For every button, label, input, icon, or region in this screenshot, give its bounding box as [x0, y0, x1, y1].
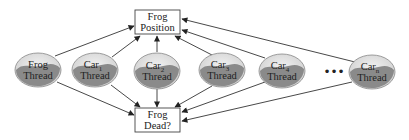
- thread-car4-name: Car: [271, 60, 287, 71]
- frog-threads-diagram: Frog Position Frog Dead? Frog Thread Car…: [0, 0, 409, 140]
- thread-car3-label: Thread: [207, 70, 237, 81]
- frog-position-line2: Position: [140, 22, 175, 33]
- thread-carn: Carn Thread: [349, 55, 395, 89]
- frog-dead-box: Frog Dead?: [135, 108, 180, 132]
- thread-car2-name: Car: [146, 60, 162, 71]
- frog-position-box: Frog Position: [135, 10, 180, 34]
- thread-carn-label: Thread: [357, 72, 387, 83]
- thread-car3-name: Car: [211, 59, 227, 70]
- frog-position-line1: Frog: [148, 11, 169, 22]
- thread-frog: Frog Thread: [15, 53, 61, 87]
- frog-dead-line1: Frog: [148, 109, 169, 120]
- thread-car1-name: Car: [84, 59, 100, 70]
- thread-car2: Car2 Thread: [134, 53, 180, 89]
- thread-car1: Car1 Thread: [72, 53, 118, 87]
- thread-car2-label: Thread: [142, 71, 172, 82]
- frog-dead-line2: Dead?: [144, 120, 171, 131]
- thread-carn-name: Car: [361, 61, 377, 72]
- thread-car4-label: Thread: [267, 71, 297, 82]
- thread-car1-label: Thread: [80, 70, 110, 81]
- ellipsis-dots: •••: [323, 65, 344, 79]
- thread-car3: Car3 Thread: [199, 53, 245, 87]
- edges-to-dead: [57, 82, 352, 121]
- thread-car4: Car4 Thread: [259, 54, 305, 88]
- thread-frog-label: Thread: [23, 70, 53, 81]
- thread-frog-name: Frog: [28, 59, 49, 70]
